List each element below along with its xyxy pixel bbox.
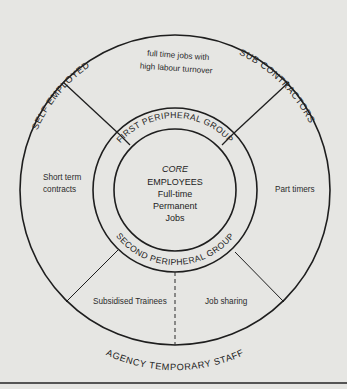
region-top-line2: high labour turnover — [140, 61, 214, 75]
label-first-peripheral-group: FIRST PERIPHERAL GROUP — [114, 110, 235, 145]
divider-upper-left — [63, 82, 119, 134]
region-top-line1: full time jobs with — [147, 49, 210, 62]
divider-lower-left — [66, 250, 118, 302]
region-bottom-left: Subsidised Trainees — [93, 297, 167, 306]
core-title: CORE — [162, 164, 189, 174]
core-line-permanent: Permanent — [153, 201, 198, 211]
region-right-line1: Part timers — [275, 185, 315, 194]
core-line-full-time: Full-time — [158, 189, 193, 199]
label-second-peripheral-group: SECOND PERIPHERAL GROUP — [114, 231, 236, 267]
diagram-canvas: SELF EMPLOYED SUB CONTRACTORS AGENCY TEM… — [0, 0, 347, 389]
core-line-jobs: Jobs — [165, 213, 185, 223]
bottom-rule — [0, 382, 347, 384]
label-self-employed: SELF EMPLOYED — [30, 60, 92, 132]
divider-lower-right — [235, 252, 284, 302]
core-line-employees: EMPLOYEES — [147, 177, 203, 187]
label-agency-temporary-staff: AGENCY TEMPORARY STAFF — [105, 348, 246, 373]
divider-upper-right — [233, 82, 289, 134]
region-bottom-right: Job sharing — [205, 297, 248, 306]
region-left-line1: Short term — [43, 173, 81, 182]
flexible-firm-diagram: SELF EMPLOYED SUB CONTRACTORS AGENCY TEM… — [0, 0, 347, 389]
region-left-line2: contracts — [43, 185, 76, 194]
label-sub-contractors: SUB CONTRACTORS — [238, 47, 317, 125]
